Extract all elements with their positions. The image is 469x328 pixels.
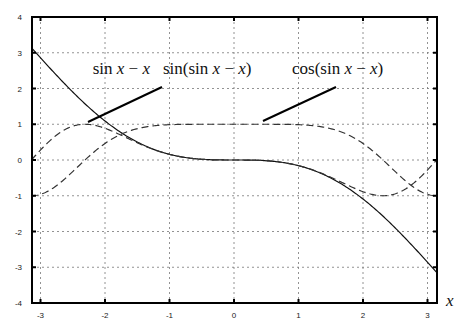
x-tick-label: 2 [361,311,366,320]
pointer-line [263,87,336,121]
y-tick-label: -3 [15,263,23,272]
curve-label: sin x − x [93,59,151,78]
y-tick-label: 3 [18,49,23,58]
y-tick-labels: 43210-1-2-3-4 [15,13,23,308]
x-tick-label: 0 [232,311,237,320]
function-plot: 43210-1-2-3-4 -3-2-10123 sin x − xsin(si… [0,0,469,328]
x-tick-label: 3 [425,311,430,320]
y-tick-label: -1 [15,192,23,201]
x-tick-labels: -3-2-10123 [37,311,430,320]
x-tick-label: -2 [101,311,109,320]
y-tick-label: -2 [15,228,23,237]
pointer-line [88,87,162,122]
y-tick-label: 4 [18,13,23,22]
curve-labels: sin x − xsin(sin x − x)cos(sin x − x) [93,59,384,78]
curve-label: cos(sin x − x) [292,59,383,78]
y-tick-label: -4 [15,299,23,308]
y-tick-label: 1 [18,120,23,129]
x-tick-label: -3 [37,311,45,320]
x-tick-label: 1 [296,311,301,320]
x-tick-label: -1 [166,311,174,320]
curve-label: sin(sin x − x) [163,59,251,78]
y-tick-label: 0 [18,156,23,165]
x-axis-label: x [445,291,454,310]
y-tick-label: 2 [18,85,23,94]
